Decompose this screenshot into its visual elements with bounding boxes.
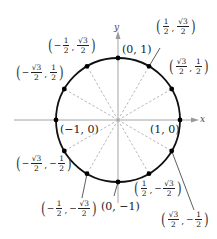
point-1-0-dot	[178, 118, 183, 123]
label-point-half-sqrt3half: ( 12 , √32 )	[155, 18, 197, 35]
x-axis-arrow-icon	[191, 118, 199, 123]
label-point-negsqrt3half-half: ( − √32 , 12 )	[15, 64, 65, 81]
label-point-neg1-0: (−1, 0)	[60, 124, 99, 135]
point-0-neg1-dot	[116, 180, 121, 185]
label-point-negsqrt3half-neghalf: ( − √32 , − 12 )	[15, 155, 73, 172]
label-point-0-neg1: (0, −1)	[101, 201, 140, 212]
point-neg1-0-dot	[54, 118, 59, 123]
label-point-neghalf-negsqrt3half: ( − 12 , − √32 )	[40, 200, 98, 217]
point-0-1-dot	[116, 56, 121, 61]
label-point-1-0: (1, 0)	[150, 124, 180, 135]
y-axis-arrow-icon	[116, 31, 121, 39]
label-point-half-negsqrt3half: ( 12 , − √32 )	[133, 180, 183, 197]
y-axis-label: y	[114, 22, 119, 32]
label-point-0-1: (0, 1)	[122, 44, 152, 55]
x-axis-label: x	[200, 114, 205, 124]
label-point-sqrt3half-half: ( √32 , 12 )	[168, 58, 210, 75]
label-point-neghalf-sqrt3half: ( − 12 , √32 )	[47, 37, 97, 54]
label-point-sqrt3half-neghalf: ( √32 , − 12 )	[160, 211, 210, 228]
